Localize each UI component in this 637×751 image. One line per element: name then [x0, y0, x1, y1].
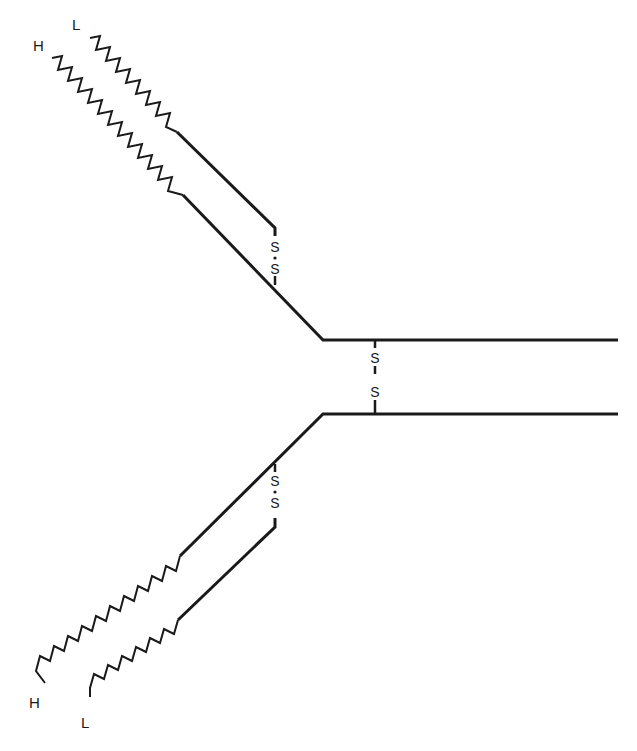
upper-light-chain-variable-zigzag	[90, 36, 177, 132]
hinge-ss-bond-s1: S	[370, 350, 379, 366]
upper-heavy-chain-label: H	[33, 37, 44, 54]
lower-ss-bond-s1: S	[270, 473, 279, 489]
antibody-diagram: S S S S S S L H H L	[0, 0, 637, 751]
lower-light-chain-label: L	[81, 714, 89, 731]
upper-light-chain-label: L	[72, 16, 80, 33]
upper-ss-bond-dot	[273, 256, 276, 259]
upper-heavy-chain	[183, 195, 618, 340]
lower-light-chain-variable-zigzag	[90, 620, 178, 697]
upper-heavy-chain-variable-zigzag	[52, 56, 183, 195]
upper-light-chain-constant	[177, 132, 275, 236]
lower-heavy-chain	[180, 414, 618, 556]
lower-heavy-chain-label: H	[29, 694, 40, 711]
lower-ss-bond-s2: S	[270, 495, 279, 511]
hinge-ss-bond-s2: S	[370, 384, 379, 400]
upper-ss-bond-s2: S	[270, 261, 279, 277]
lower-ss-bond-dot	[273, 490, 276, 493]
upper-ss-bond-s1: S	[270, 239, 279, 255]
lower-light-chain-constant	[178, 518, 275, 620]
